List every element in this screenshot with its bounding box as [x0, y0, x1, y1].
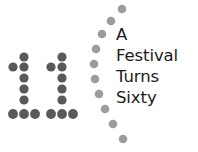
- numeral-dot-11: [57, 95, 66, 104]
- numeral-dot-13: [19, 109, 29, 119]
- arc-dot-1: [107, 17, 116, 26]
- arc-dot-7: [101, 105, 110, 114]
- arc-dot-9: [119, 135, 128, 144]
- numeral-dot-15: [46, 109, 56, 119]
- arc-dot-8: [109, 120, 118, 129]
- numeral-dot-1: [8, 62, 17, 71]
- logo-text-line-2: Festival: [116, 45, 198, 66]
- numeral-dot-2: [19, 62, 28, 71]
- numeral-dot-5: [19, 95, 28, 104]
- numeral-dot-0: [19, 52, 28, 61]
- arc-dot-2: [98, 30, 107, 39]
- numeral-dot-4: [19, 84, 28, 93]
- arc-dot-3: [92, 45, 101, 54]
- numeral-dot-14: [30, 109, 40, 119]
- numeral-dot-8: [57, 62, 66, 71]
- numeral-dot-6: [57, 52, 66, 61]
- logo-text-line-1: A: [116, 24, 198, 45]
- festival-logo: A Festival Turns Sixty: [0, 0, 198, 152]
- numeral-dot-16: [57, 109, 67, 119]
- logo-text-line-3: Turns: [116, 66, 198, 87]
- logo-text-line-4: Sixty: [116, 87, 198, 108]
- arc-dot-5: [91, 75, 100, 84]
- arc-dot-4: [90, 60, 99, 69]
- arc-dot-6: [95, 90, 104, 99]
- numeral-dot-10: [57, 84, 66, 93]
- numeral-dot-7: [46, 62, 55, 71]
- numeral-dot-9: [57, 73, 66, 82]
- numeral-dot-12: [8, 109, 18, 119]
- logo-text-block: A Festival Turns Sixty: [116, 24, 198, 108]
- arc-dot-0: [118, 5, 127, 14]
- numeral-dot-3: [19, 73, 28, 82]
- numeral-eleven-dots: [8, 52, 78, 119]
- numeral-dot-17: [68, 109, 78, 119]
